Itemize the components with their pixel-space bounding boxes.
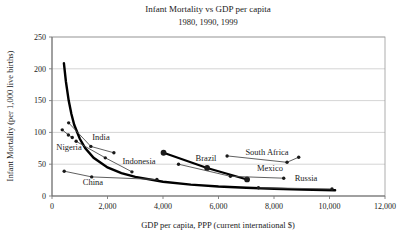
series-point-south-africa-1990	[285, 161, 288, 164]
country-label-south-africa: South Africa	[245, 147, 288, 157]
country-label-china: China	[83, 177, 104, 187]
x-tick-label-8000: 8,000	[265, 202, 283, 211]
series-point-mexico-1990	[229, 175, 232, 178]
y-tick-label-250: 250	[34, 33, 46, 42]
series-point-india-1999	[112, 151, 115, 154]
series-point-nigeria-1999	[71, 136, 74, 139]
x-tick-label-10000: 10,000	[319, 202, 341, 211]
series-point-south-africa-1999	[297, 156, 300, 159]
y-tick-label-200: 200	[34, 65, 46, 74]
country-label-brazil: Brazil	[196, 153, 217, 163]
y-tick-label-100: 100	[34, 128, 46, 137]
series-point-nigeria-1980	[61, 128, 64, 131]
series-point-china-1999	[155, 178, 158, 181]
x-tick-label-12000: 12,000	[374, 202, 396, 211]
y-tick-label-150: 150	[34, 96, 46, 105]
y-tick-label-0: 0	[42, 192, 46, 201]
chart-title: Infant Mortality vs GDP per capita	[145, 4, 270, 14]
series-point-russia-1990	[330, 187, 333, 190]
series-point-russia-1980	[257, 186, 260, 189]
series-point-china-1980	[63, 169, 66, 172]
series-point-nigeria-1990	[67, 133, 70, 136]
fitted-curve	[64, 63, 335, 190]
country-label-india: India	[92, 132, 110, 142]
series-point-india-1980	[67, 121, 70, 124]
country-label-russia: Russia	[295, 173, 318, 183]
series-point-indonesia-1990	[104, 156, 107, 159]
series-point-brazil-1980	[161, 150, 167, 156]
plot-area: 05010015020025002,0004,0006,0008,00010,0…	[34, 33, 396, 211]
x-tick-label-6000: 6,000	[210, 202, 228, 211]
series-point-indonesia-1999	[130, 170, 133, 173]
y-axis-title: Infant Mortality (per 1,000 live births)	[5, 50, 15, 181]
chart-subtitle: 1980, 1990, 1999	[178, 17, 238, 27]
country-label-nigeria: Nigeria	[56, 142, 82, 152]
x-axis-title: GDP per capita, PPP (current internation…	[141, 220, 295, 230]
country-label-indonesia: Indonesia	[122, 156, 155, 166]
y-tick-label-50: 50	[38, 160, 46, 169]
series-point-mexico-1999	[282, 176, 285, 179]
series-point-mexico-1980	[177, 163, 180, 166]
series-point-india-1990	[89, 145, 92, 148]
x-tick-label-2000: 2,000	[99, 202, 117, 211]
x-tick-label-0: 0	[50, 202, 54, 211]
series-point-brazil-1999	[244, 177, 250, 183]
x-tick-label-4000: 4,000	[154, 202, 172, 211]
series-point-south-africa-1980	[225, 154, 228, 157]
infant-mortality-gdp-chart: Infant Mortality vs GDP per capita 1980,…	[0, 0, 416, 240]
chart-container: Infant Mortality vs GDP per capita 1980,…	[0, 0, 416, 240]
country-label-mexico: Mexico	[257, 163, 283, 173]
series-point-indonesia-1980	[74, 140, 77, 143]
